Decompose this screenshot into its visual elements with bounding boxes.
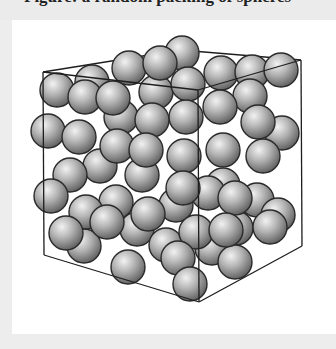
- sphere: [34, 179, 68, 213]
- sphere: [166, 171, 200, 205]
- sphere: [253, 210, 287, 244]
- sphere: [62, 120, 96, 154]
- box-edge-front: [301, 60, 302, 246]
- sphere: [167, 139, 201, 173]
- sphere: [241, 105, 275, 139]
- sphere: [206, 133, 240, 167]
- sphere: [264, 53, 298, 87]
- sphere: [143, 46, 177, 80]
- sphere: [131, 197, 165, 231]
- sphere: [96, 81, 130, 115]
- sphere: [203, 90, 237, 124]
- sphere: [90, 205, 124, 239]
- sphere: [209, 213, 243, 247]
- sphere-packing-figure: [0, 0, 336, 349]
- sphere: [49, 216, 83, 250]
- sphere: [218, 245, 252, 279]
- sphere: [204, 56, 238, 90]
- sphere: [171, 67, 205, 101]
- sphere: [135, 103, 169, 137]
- sphere: [112, 51, 146, 85]
- sphere: [129, 133, 163, 167]
- sphere: [246, 139, 280, 173]
- sphere: [218, 181, 252, 215]
- sphere: [111, 250, 145, 284]
- sphere: [31, 114, 65, 148]
